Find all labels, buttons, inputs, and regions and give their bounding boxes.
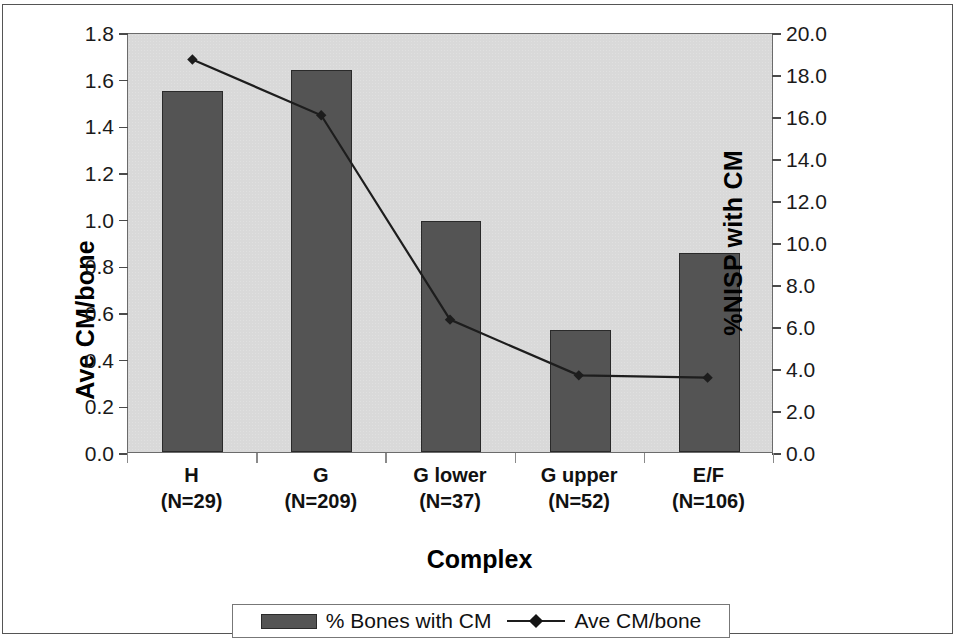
left-tick-label: 0.6	[85, 303, 114, 324]
right-tick-label: 4.0	[786, 359, 815, 380]
left-tick	[119, 80, 128, 82]
right-tick	[772, 411, 781, 413]
x-category-name: G upper	[541, 464, 618, 486]
x-category-name: G	[313, 464, 329, 486]
left-tick	[119, 127, 128, 129]
line-series-overlay	[128, 34, 772, 452]
x-separator	[385, 453, 386, 463]
left-tick-label: 1.4	[85, 116, 114, 137]
ave-cm-bone-markers	[187, 54, 713, 382]
ave-cm-bone-line	[192, 60, 707, 378]
x-category-g-lower: G lower(N=37)	[385, 462, 514, 514]
x-category-sample-size: (N=52)	[515, 488, 644, 514]
bar-swatch-icon	[261, 614, 317, 629]
plot-area: 0.00.20.40.60.81.01.21.41.61.8 0.02.04.0…	[127, 33, 773, 453]
right-tick-label: 14.0	[786, 149, 827, 170]
x-category-g-upper: G upper(N=52)	[515, 462, 644, 514]
x-axis-title: Complex	[0, 545, 959, 574]
line-marker-g-lower	[445, 314, 455, 324]
right-tick	[772, 285, 781, 287]
right-tick	[772, 159, 781, 161]
x-category-sample-size: (N=37)	[385, 488, 514, 514]
x-category-sample-size: (N=106)	[644, 488, 773, 514]
right-tick	[772, 201, 781, 203]
left-tick-label: 1.6	[85, 70, 114, 91]
legend-label-ave: Ave CM/bone	[574, 609, 701, 633]
right-axis-title: %NISP with CM	[719, 150, 748, 336]
line-marker-g-upper	[574, 370, 584, 380]
x-separator	[256, 453, 257, 463]
x-category-name: G lower	[413, 464, 486, 486]
x-category-sample-size: (N=29)	[127, 488, 256, 514]
left-tick	[119, 313, 128, 315]
left-tick-label: 0.8	[85, 256, 114, 277]
chart-legend: % Bones with CM Ave CM/bone	[232, 604, 730, 638]
right-tick	[772, 33, 781, 35]
x-category-name: H	[184, 464, 198, 486]
left-tick-label: 0.2	[85, 396, 114, 417]
right-tick-label: 2.0	[786, 401, 815, 422]
line-marker-h	[187, 54, 197, 64]
right-tick-label: 6.0	[786, 317, 815, 338]
left-tick-label: 0.0	[85, 443, 114, 464]
right-tick-label: 16.0	[786, 107, 827, 128]
x-separator	[644, 453, 645, 463]
left-tick-label: 0.4	[85, 350, 114, 371]
x-category-name: E/F	[693, 464, 724, 486]
x-category-g: G(N=209)	[256, 462, 385, 514]
left-tick-label: 1.2	[85, 163, 114, 184]
x-separator	[127, 453, 128, 463]
line-diamond-swatch-icon	[507, 614, 565, 628]
left-tick	[119, 407, 128, 409]
right-tick-label: 0.0	[786, 443, 815, 464]
x-category-sample-size: (N=209)	[256, 488, 385, 514]
legend-label-bones: % Bones with CM	[326, 609, 492, 633]
left-tick-label: 1.8	[85, 23, 114, 44]
x-category-h: H(N=29)	[127, 462, 256, 514]
line-marker-g	[316, 110, 326, 120]
x-separator	[515, 453, 516, 463]
right-tick-label: 18.0	[786, 65, 827, 86]
right-tick-label: 20.0	[786, 23, 827, 44]
x-separator	[773, 453, 774, 463]
x-category-e-f: E/F(N=106)	[644, 462, 773, 514]
legend-entry-bones: % Bones with CM	[261, 609, 492, 633]
right-tick	[772, 369, 781, 371]
left-tick	[119, 267, 128, 269]
left-tick	[119, 173, 128, 175]
legend-entry-ave: Ave CM/bone	[507, 609, 701, 633]
right-tick	[772, 243, 781, 245]
right-tick-label: 10.0	[786, 233, 827, 254]
left-tick	[119, 220, 128, 222]
right-tick-label: 12.0	[786, 191, 827, 212]
right-tick	[772, 75, 781, 77]
plot-inner: 0.00.20.40.60.81.01.21.41.61.8 0.02.04.0…	[128, 34, 772, 452]
right-tick	[772, 117, 781, 119]
right-tick	[772, 327, 781, 329]
left-tick	[119, 360, 128, 362]
line-marker-e-f	[702, 373, 712, 383]
left-tick-label: 1.0	[85, 210, 114, 231]
right-tick-label: 8.0	[786, 275, 815, 296]
left-tick	[119, 33, 128, 35]
chart-figure: Ave CM/bone 0.00.20.40.60.81.01.21.41.61…	[0, 0, 959, 640]
